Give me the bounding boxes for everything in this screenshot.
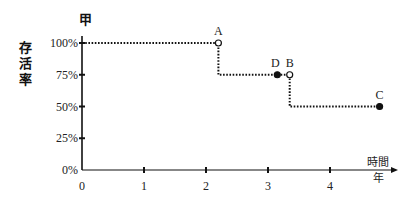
x-tick-label: 2 [203,179,209,193]
data-points: ADBC [214,24,384,110]
svg-text:率: 率 [19,72,32,87]
x-tick-label: 1 [141,179,147,193]
svg-text:存: 存 [19,40,32,55]
x-axis-label-top: 時間 [367,156,389,169]
survival-chart: 甲 存 活 率 0%25%50%75%100% 01234 時間 年 ADBC [0,0,408,216]
point-label: B [286,56,294,70]
y-tick-label: 100% [50,36,78,50]
x-tick-label: 4 [327,179,333,193]
y-tick-label: 50% [56,100,78,114]
survival-step-line [82,43,380,107]
x-axis-label-bottom: 年 [373,171,384,185]
svg-text:活: 活 [19,56,32,71]
x-tick-label: 0 [79,179,85,193]
y-tick-label: 75% [56,68,78,82]
point-label: C [376,88,384,102]
point-label: A [214,24,223,38]
point-c [377,104,383,110]
x-tick-label: 3 [265,179,271,193]
point-b [287,72,293,78]
y-ticks: 0%25%50%75%100% [50,36,85,177]
chart-title: 甲 [79,12,92,27]
point-d [274,72,280,78]
point-a [215,40,221,46]
x-ticks: 01234 [79,167,333,193]
x-axis-arrow-icon [391,167,398,173]
y-tick-label: 0% [62,163,78,177]
y-axis-label: 存 活 率 [19,40,32,87]
point-label: D [271,56,280,70]
y-tick-label: 25% [56,131,78,145]
